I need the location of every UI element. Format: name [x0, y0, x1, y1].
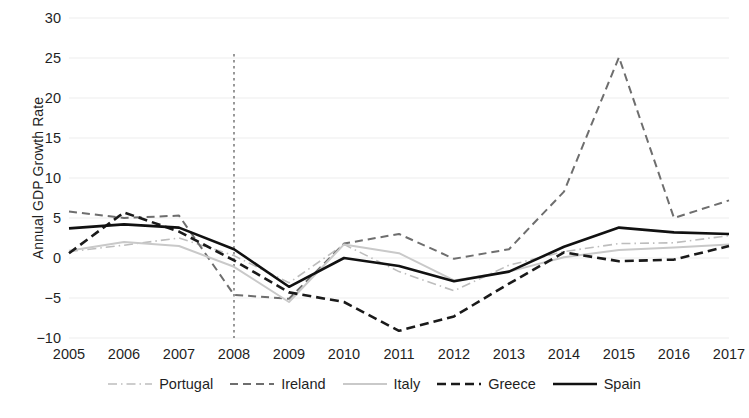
x-axis-tick-label: 2012 [438, 346, 470, 362]
legend-label: Italy [394, 376, 421, 392]
legend-item-italy[interactable]: Italy [343, 376, 421, 392]
x-axis-tick-label: 2014 [548, 346, 580, 362]
y-axis-tick-label: 5 [53, 210, 61, 226]
x-axis-tick-label: 2005 [53, 346, 85, 362]
y-axis-tick-label: 25 [45, 50, 61, 66]
x-axis-tick-label: 2017 [713, 346, 745, 362]
x-axis-tick-label: 2008 [218, 346, 250, 362]
y-axis-tick-label: 10 [45, 170, 61, 186]
y-axis-label: Annual GDP Growth Rate [30, 48, 46, 308]
legend-label: Ireland [281, 376, 325, 392]
legend-swatch-italy-icon [343, 378, 387, 390]
x-axis-tick-label: 2010 [328, 346, 360, 362]
x-axis-tick-label: 2009 [273, 346, 305, 362]
legend-item-spain[interactable]: Spain [553, 376, 641, 392]
x-axis-tick-label: 2007 [163, 346, 195, 362]
x-axis-tick-label: 2006 [108, 346, 140, 362]
legend-item-greece[interactable]: Greece [437, 376, 536, 392]
legend-swatch-spain-icon [553, 378, 597, 390]
plot-svg [69, 18, 729, 338]
legend-label: Greece [488, 376, 536, 392]
y-axis-tick-label: 15 [45, 130, 61, 146]
legend-label: Spain [604, 376, 641, 392]
series-line-portugal [69, 236, 729, 291]
y-axis-tick-label: −10 [36, 330, 61, 346]
x-axis-tick-label: 2013 [493, 346, 525, 362]
y-axis-tick-label: 20 [45, 90, 61, 106]
plot-area: 302520151050−5−1020052006200720082009201… [69, 18, 729, 338]
legend-swatch-portugal-icon [108, 378, 152, 390]
x-axis-tick-label: 2016 [658, 346, 690, 362]
gdp-growth-line-chart: Annual GDP Growth Rate 302520151050−5−10… [0, 0, 749, 418]
legend-swatch-greece-icon [437, 378, 481, 390]
chart-legend: PortugalIrelandItalyGreeceSpain [0, 376, 749, 392]
legend-item-portugal[interactable]: Portugal [108, 376, 213, 392]
y-axis-tick-label: 0 [53, 250, 61, 266]
x-axis-tick-label: 2011 [383, 346, 414, 362]
legend-item-ireland[interactable]: Ireland [230, 376, 325, 392]
legend-swatch-ireland-icon [230, 378, 274, 390]
y-axis-tick-label: −5 [44, 290, 61, 306]
x-axis-tick-label: 2015 [603, 346, 635, 362]
y-axis-tick-label: 30 [45, 10, 61, 26]
legend-label: Portugal [159, 376, 213, 392]
